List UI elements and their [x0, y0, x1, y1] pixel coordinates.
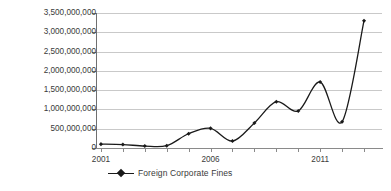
x-tick-mark: [254, 148, 255, 152]
y-axis-tick-label: 3,500,000,000: [8, 9, 96, 17]
series-line: [101, 21, 364, 147]
y-axis-tick-label: 3,000,000,000: [8, 28, 96, 36]
x-axis-tick-label: 2001: [92, 155, 110, 164]
x-axis-tick-label: 2011: [311, 155, 329, 164]
x-tick-mark: [342, 148, 343, 152]
y-axis-tick-label: 1,500,000,000: [8, 86, 96, 94]
y-axis-tick-label: 2,000,000,000: [8, 67, 96, 75]
data-point-marker: [121, 142, 125, 146]
x-tick-mark: [167, 148, 168, 152]
x-tick-mark: [298, 148, 299, 152]
legend-marker-icon: [108, 169, 134, 178]
data-point-marker: [362, 19, 366, 23]
x-tick-mark: [189, 148, 190, 152]
data-point-marker: [230, 139, 234, 143]
data-point-marker: [252, 121, 256, 125]
chart-container: 0500,000,0001,000,000,0001,500,000,0002,…: [0, 0, 391, 191]
x-tick-mark: [211, 148, 212, 152]
gridline: [97, 13, 382, 14]
x-tick-mark: [276, 148, 277, 152]
x-axis-tick-label: 2006: [201, 155, 219, 164]
data-point-marker: [340, 120, 344, 124]
gridline: [97, 90, 382, 91]
x-tick-mark: [232, 148, 233, 152]
y-axis-tick-label: 2,500,000,000: [8, 48, 96, 56]
y-axis-tick-label: 500,000,000: [8, 125, 96, 133]
x-tick-mark: [123, 148, 124, 152]
chart-legend: Foreign Corporate Fines: [108, 168, 232, 178]
x-tick-mark: [320, 148, 321, 152]
y-axis-tick-label: 0: [8, 144, 96, 152]
data-point-marker: [99, 142, 103, 146]
gridline: [97, 109, 382, 110]
gridline: [97, 129, 382, 130]
gridline: [97, 32, 382, 33]
data-point-marker: [274, 100, 278, 104]
x-axis-line: [96, 148, 383, 149]
x-tick-mark: [101, 148, 102, 152]
gridline: [97, 52, 382, 53]
y-axis-tick-label: 1,000,000,000: [8, 105, 96, 113]
x-tick-mark: [145, 148, 146, 152]
y-axis-line: [96, 13, 97, 149]
data-point-marker: [187, 132, 191, 136]
legend-item-label: Foreign Corporate Fines: [138, 168, 232, 178]
x-tick-mark: [364, 148, 365, 152]
gridline: [97, 71, 382, 72]
data-point-marker: [318, 80, 322, 84]
